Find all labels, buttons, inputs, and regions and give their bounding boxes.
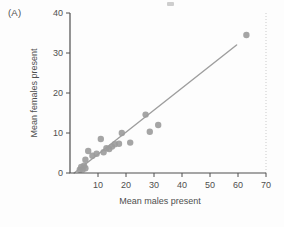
- x-tick-label: 30: [149, 180, 159, 190]
- x-tick-label: 60: [233, 180, 243, 190]
- x-tick-label: 70: [261, 180, 271, 190]
- data-point: [116, 141, 122, 147]
- data-point: [82, 165, 88, 171]
- data-point: [85, 148, 91, 154]
- scatter-chart: 10203040506070010203040Mean males presen…: [0, 0, 284, 227]
- data-point: [142, 111, 148, 117]
- y-axis-title: Mean females present: [29, 48, 39, 138]
- axes-lines: [70, 13, 266, 173]
- data-point: [243, 32, 249, 38]
- y-tick-label: 40: [53, 8, 63, 18]
- y-tick-label: 20: [53, 88, 63, 98]
- x-axis-title: Mean males present: [119, 196, 201, 206]
- scatter-figure: (A) 10203040506070010203040Mean males pr…: [0, 0, 284, 227]
- data-point: [82, 157, 88, 163]
- x-tick-label: 10: [93, 180, 103, 190]
- y-tick-label: 0: [58, 168, 63, 178]
- data-point: [93, 151, 99, 157]
- x-tick-label: 50: [205, 180, 215, 190]
- y-tick-label: 30: [53, 48, 63, 58]
- x-tick-label: 20: [121, 180, 131, 190]
- data-point: [98, 136, 104, 142]
- data-point: [119, 130, 125, 136]
- x-tick-label: 40: [177, 180, 187, 190]
- data-point: [127, 139, 133, 145]
- y-tick-label: 10: [53, 128, 63, 138]
- data-point: [147, 129, 153, 135]
- data-point: [155, 122, 161, 128]
